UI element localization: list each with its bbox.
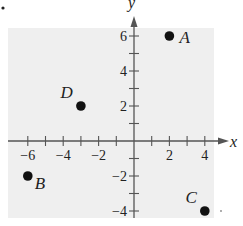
point-marker-icon: [23, 171, 33, 181]
stray-dot: [1, 6, 4, 9]
point-label: D: [60, 83, 74, 102]
coordinate-plane: −6−4−224642−2−4 ABCD x y: [0, 0, 243, 226]
x-tick-label: 2: [166, 148, 173, 163]
x-axis-arrow-icon: [218, 138, 229, 145]
y-tick-label: 4: [120, 64, 127, 79]
point-label: C: [185, 188, 197, 207]
x-tick-label: 4: [201, 148, 208, 163]
point-marker-icon: [165, 31, 175, 41]
y-axis-label: y: [126, 0, 136, 12]
x-tick-label: −2: [91, 148, 106, 163]
point-marker-icon: [200, 206, 210, 216]
x-tick-label: −4: [56, 148, 71, 163]
y-tick-label: 6: [120, 29, 127, 44]
point-marker-icon: [76, 101, 86, 111]
point-label: B: [35, 174, 46, 193]
stray-dot: [220, 210, 222, 212]
x-tick-label: −6: [20, 148, 35, 163]
y-axis-arrow-icon: [131, 16, 138, 27]
y-tick-label: −4: [112, 204, 127, 219]
x-axis-label: x: [229, 133, 237, 150]
y-tick-label: 2: [120, 99, 127, 114]
y-tick-label: −2: [112, 169, 127, 184]
point-label: A: [178, 28, 190, 47]
